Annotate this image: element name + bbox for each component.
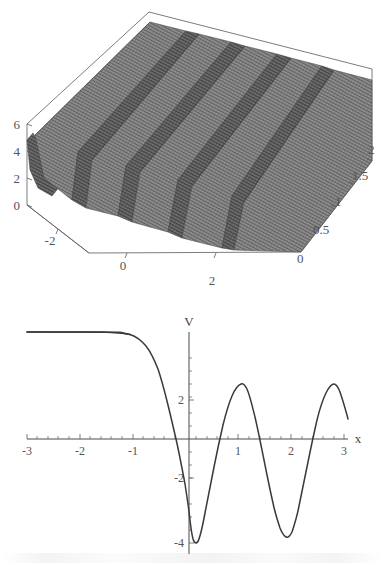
y-tick-2: 2 [178, 393, 184, 407]
z-tick-6: 6 [14, 117, 21, 132]
x-tick-3: 3 [341, 444, 347, 458]
y-tick-neg4: -4 [174, 536, 184, 550]
surface-mesh [27, 22, 372, 252]
figure-container: 6 4 2 0 -2 0 2 2 1.5 [0, 0, 382, 565]
potential-plot-svg: -3 -2 -1 1 2 3 2 -2 -4 V x [0, 292, 382, 565]
y-tick-2: 2 [368, 142, 375, 157]
x-tick-neg2: -2 [75, 444, 85, 458]
potential-plot-panel: -3 -2 -1 1 2 3 2 -2 -4 V x [0, 292, 382, 565]
z-tick-2: 2 [14, 171, 21, 186]
x-tick-0: 0 [120, 258, 127, 273]
x-tick-2: 2 [288, 444, 294, 458]
y-axis-title: V [184, 314, 194, 329]
z-tick-4: 4 [14, 144, 21, 159]
y-tick-0: 0 [297, 251, 304, 266]
y-tick-1p5: 1.5 [352, 168, 368, 183]
x-tick-neg1: -1 [128, 444, 138, 458]
surface-plot-panel: 6 4 2 0 -2 0 2 2 1.5 [0, 0, 382, 292]
z-axis: 6 4 2 0 [14, 117, 33, 213]
x-tick-neg3: -3 [22, 444, 32, 458]
surface-plot-svg: 6 4 2 0 -2 0 2 2 1.5 [0, 0, 382, 292]
potential-curve [27, 332, 348, 543]
x-tick-neg2: -2 [45, 233, 56, 248]
scan-artifact [0, 553, 382, 563]
x-major-ticks [27, 434, 344, 439]
axes-2d [27, 332, 348, 554]
x-tick-2: 2 [209, 273, 216, 288]
x-axis-title: x [355, 431, 362, 446]
z-tick-0: 0 [14, 198, 21, 213]
y-tick-1: 1 [335, 194, 342, 209]
x-tick-1: 1 [235, 444, 241, 458]
y-tick-0p5: 0.5 [313, 222, 329, 237]
